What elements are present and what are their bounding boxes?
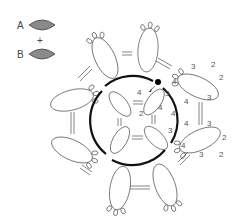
shuttle-icon-a bbox=[29, 20, 55, 30]
svg-text:4: 4 bbox=[181, 141, 186, 150]
svg-text:2: 2 bbox=[211, 60, 216, 69]
legend-label-a: A bbox=[17, 20, 24, 31]
tatting-diagram: A + B bbox=[0, 0, 238, 216]
svg-text:4: 4 bbox=[184, 119, 189, 128]
svg-text:3: 3 bbox=[168, 126, 173, 135]
svg-text:4: 4 bbox=[158, 103, 163, 112]
svg-text:2: 2 bbox=[219, 150, 224, 159]
legend-label-b: B bbox=[17, 49, 24, 60]
svg-text:2: 2 bbox=[222, 133, 227, 142]
svg-text:3: 3 bbox=[207, 93, 212, 102]
start-marker bbox=[155, 79, 161, 85]
svg-text:3: 3 bbox=[207, 119, 212, 128]
shuttle-icon-b bbox=[29, 49, 55, 59]
svg-text:3: 3 bbox=[165, 89, 170, 98]
svg-text:3: 3 bbox=[191, 62, 196, 71]
svg-text:2: 2 bbox=[139, 109, 144, 118]
svg-text:2: 2 bbox=[219, 73, 224, 82]
legend-joiner: + bbox=[37, 35, 43, 46]
svg-text:4: 4 bbox=[171, 109, 176, 118]
svg-text:4: 4 bbox=[184, 97, 189, 106]
svg-text:3: 3 bbox=[199, 150, 204, 159]
legend: A + B bbox=[17, 20, 55, 60]
svg-text:4: 4 bbox=[172, 77, 177, 86]
svg-text:4: 4 bbox=[137, 88, 142, 97]
